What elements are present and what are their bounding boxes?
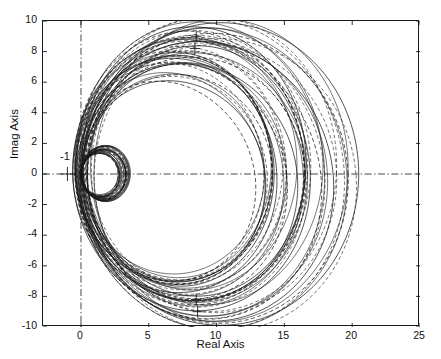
y-tick-label: -8 bbox=[11, 289, 37, 300]
x-axis-title: Real Axis bbox=[0, 338, 441, 350]
y-tick-label: 2 bbox=[11, 136, 37, 147]
y-tick-label: -2 bbox=[11, 198, 37, 209]
y-tick-label: 8 bbox=[11, 45, 37, 56]
nyquist-canvas bbox=[43, 21, 420, 327]
y-tick-label: 4 bbox=[11, 106, 37, 117]
y-tick-label: 0 bbox=[11, 167, 37, 178]
locus-curve bbox=[76, 46, 286, 289]
critical-point-label: -1 bbox=[60, 150, 70, 162]
locus-curve bbox=[75, 41, 322, 319]
plot-area bbox=[42, 20, 419, 326]
figure-root: Imag Axis -1 1086420-2-4-6-8-10 05101520… bbox=[0, 0, 441, 359]
y-tick-label: -4 bbox=[11, 228, 37, 239]
y-tick-label: -6 bbox=[11, 259, 37, 270]
y-tick-label: 10 bbox=[11, 14, 37, 25]
locus-curve bbox=[81, 76, 267, 280]
y-tick-label: -10 bbox=[11, 320, 37, 331]
y-tick-label: 6 bbox=[11, 75, 37, 86]
